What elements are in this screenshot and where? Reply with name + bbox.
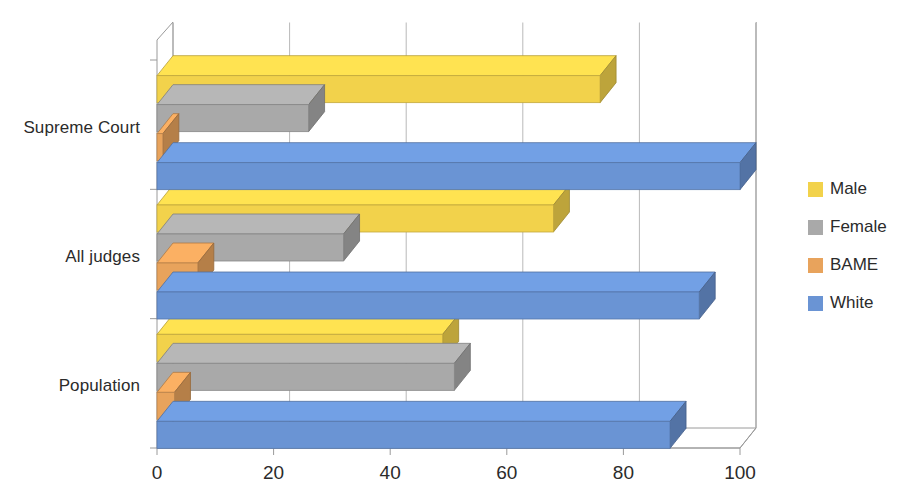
x-tick-40: 40 xyxy=(380,462,401,484)
chart-legend: MaleFemaleBAMEWhite xyxy=(808,170,904,322)
legend-swatch-female-icon xyxy=(808,220,823,235)
x-tick-100: 100 xyxy=(724,462,756,484)
bar-chart: Supreme CourtAll judgesPopulation 020406… xyxy=(0,0,905,487)
legend-label: Female xyxy=(830,217,887,237)
x-tick-60: 60 xyxy=(496,462,517,484)
legend-item-male[interactable]: Male xyxy=(808,170,904,208)
x-tick-20: 20 xyxy=(263,462,284,484)
legend-swatch-male-icon xyxy=(808,182,823,197)
legend-label: Male xyxy=(830,179,867,199)
legend-item-white[interactable]: White xyxy=(808,284,904,322)
legend-item-bame[interactable]: BAME xyxy=(808,246,904,284)
legend-label: White xyxy=(830,293,873,313)
x-tick-0: 0 xyxy=(152,462,163,484)
legend-label: BAME xyxy=(830,255,878,275)
legend-item-female[interactable]: Female xyxy=(808,208,904,246)
legend-swatch-bame-icon xyxy=(808,258,823,273)
legend-swatch-white-icon xyxy=(808,296,823,311)
x-tick-80: 80 xyxy=(613,462,634,484)
x-axis-tick-labels: 020406080100 xyxy=(0,0,905,487)
